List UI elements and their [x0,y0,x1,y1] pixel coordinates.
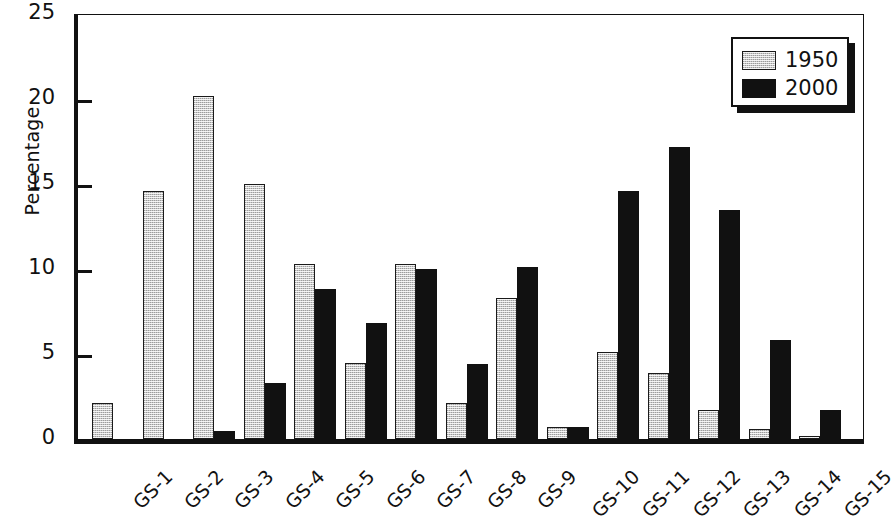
bar-gs-1-1950 [92,403,113,439]
bar-gs-7-2000 [416,269,437,439]
y-tick-label: 10 [15,257,55,278]
legend-swatch-2000-icon [742,79,776,98]
bar-gs-5-2000 [315,289,336,439]
bar-gs-10-1950 [547,427,568,439]
x-tick-label-gs-8: GS-8 [482,465,530,513]
x-tick-label-gs-5: GS-5 [331,465,379,513]
y-axis-tick-mark [78,270,92,273]
x-tick-label-gs-4: GS-4 [280,465,328,513]
legend-label-1950: 1950 [785,50,838,71]
x-tick-label-gs-12: GS-12 [688,465,744,520]
bar-gs-8-1950 [446,403,467,439]
bar-gs-14-2000 [770,340,791,439]
x-tick-label-gs-2: GS-2 [179,465,227,513]
y-axis-tick-mark [78,355,92,358]
x-tick-label-gs-3: GS-3 [230,465,278,513]
y-tick-label: 25 [15,2,55,23]
bar-gs-13-1950 [698,410,719,439]
y-tick-label: 20 [15,87,55,108]
bar-gs-8-2000 [467,364,488,439]
bar-gs-3-2000 [214,431,235,440]
bar-gs-15-1950 [799,436,820,439]
bar-gs-5-1950 [294,264,315,439]
bar-gs-11-1950 [597,352,618,439]
bar-gs-2-1950 [143,191,164,439]
legend: 1950 2000 [731,37,849,107]
bar-gs-14-1950 [749,429,770,439]
x-tick-label-gs-9: GS-9 [533,465,581,513]
bar-gs-15-2000 [820,410,841,439]
x-tick-label-gs-14: GS-14 [789,465,845,520]
y-tick-label: 5 [15,342,55,363]
bar-gs-12-2000 [669,147,690,439]
y-axis-tick-labels: 0510152025 [10,0,55,512]
y-tick-label: 15 [15,172,55,193]
bar-gs-6-1950 [345,363,366,440]
y-axis-tick-mark [78,185,92,188]
y-tick-label: 0 [15,427,55,448]
x-tick-label-gs-10: GS-10 [587,465,643,520]
x-tick-label-gs-11: GS-11 [637,465,693,520]
bar-gs-4-2000 [265,383,286,439]
bar-gs-7-1950 [395,264,416,439]
bar-gs-9-1950 [496,298,517,439]
x-tick-label-gs-6: GS-6 [381,465,429,513]
legend-item-1950: 1950 [742,46,847,74]
bar-gs-9-2000 [517,267,538,439]
bar-gs-11-2000 [618,191,639,439]
x-tick-label-gs-13: GS-13 [738,465,794,520]
bar-gs-3-1950 [193,96,214,439]
legend-label-2000: 2000 [785,78,838,99]
bar-gs-10-2000 [568,427,589,439]
bar-gs-13-2000 [719,210,740,440]
x-tick-label-gs-15: GS-15 [839,465,895,520]
x-tick-label-gs-1: GS-1 [129,465,177,513]
x-tick-label-gs-7: GS-7 [432,465,480,513]
y-axis-tick-mark [78,100,92,103]
bar-gs-6-2000 [366,323,387,439]
bar-gs-12-1950 [648,373,669,439]
legend-swatch-1950-icon [742,51,776,70]
legend-item-2000: 2000 [742,74,847,102]
bar-gs-4-1950 [244,184,265,439]
